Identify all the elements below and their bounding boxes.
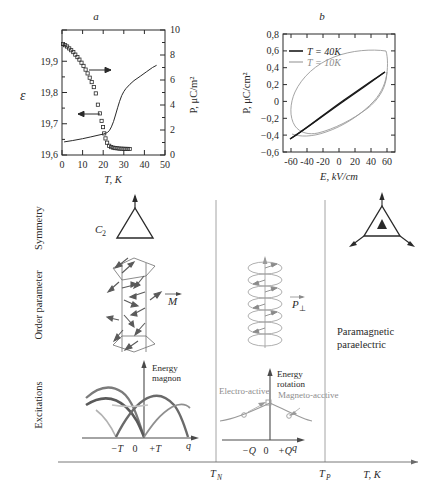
panel-a-y-axis-right: 0 2 4 6 8 10 P, μC/m²: [160, 24, 199, 160]
panel-a-ytick-r-1: 2: [170, 124, 175, 135]
panel-b-ytick-2: 0,4: [267, 62, 280, 73]
rotation-q-label: q: [292, 442, 297, 453]
panel-a-polarization-squares: [61, 42, 131, 150]
magnon-branch-6: [112, 405, 148, 407]
panel-b-ytick-7: −0,6: [261, 147, 279, 158]
rotation-xtick-zero: 0: [264, 445, 269, 456]
panel-a-ylabel-right: P, μC/m²: [188, 77, 199, 114]
magnon-energy-label: Energy: [152, 363, 178, 373]
panel-a-ytick-r-3: 6: [170, 74, 175, 85]
legend-label-40k: T = 40K: [307, 46, 342, 57]
panel-b-ytick-6: −0,4: [261, 130, 279, 141]
order-parameter-label-p-perp: P ⊥: [291, 298, 306, 313]
magnon-branch-4: [116, 396, 188, 437]
magnon-branch-2: [86, 398, 144, 437]
electro-active-label: Electro-active: [219, 386, 269, 396]
phase-label-paramagnetic: Paramagnetic: [337, 326, 394, 337]
symmetry-up-arrow-icon: [132, 194, 138, 202]
phase-diagram: Symmetry Order parameter Excitations T N…: [33, 192, 418, 482]
panel-a-xtick-2: 20: [98, 159, 108, 170]
phase-axis-xlabel: T, K: [363, 469, 381, 480]
helix-axis-arrow-icon: [263, 256, 268, 264]
magnon-xtick-neg: −T: [111, 443, 125, 454]
magnon-xtick-pos: +T: [149, 443, 163, 454]
panel-a-epsilon-curve: [64, 65, 157, 142]
symmetry-arrow-up-icon: [379, 192, 384, 200]
panel-b-xtick-0: -60: [284, 156, 297, 167]
magnon-mode-label: magnon: [152, 373, 181, 383]
rotation-xtick-neg: −Q: [242, 445, 257, 456]
panel-b-xtick-6: 60: [382, 156, 392, 167]
row-label-excitations: Excitations: [33, 381, 44, 428]
rotation-xtick-pos: +Q: [278, 445, 293, 456]
magneto-active-label: Magneto-acctive: [278, 390, 338, 400]
c2-subscript: 2: [102, 229, 106, 238]
panel-a-y-axis-left: 19,6 19,7 19,8 19,9 ε: [20, 30, 67, 160]
excitations-electromagnon: Energy rotation Electro-active Magneto-a…: [219, 368, 338, 456]
rotation-mode-label: rotation: [277, 379, 305, 389]
panel-a-xlabel: T, K: [104, 174, 122, 185]
symmetry-high-temperature: [349, 192, 415, 247]
panel-a-frame: [62, 30, 165, 155]
panel-a-xtick-0: 0: [60, 159, 65, 170]
panel-b-ylabel: P, μC/cm²: [241, 72, 252, 113]
tp-base: T: [319, 468, 326, 479]
symmetry-inner-triangle-icon: [377, 219, 387, 229]
row-label-symmetry: Symmetry: [33, 205, 44, 249]
rotation-q-arrow-icon: [297, 437, 305, 442]
panel-a-ytick-r-5: 10: [170, 24, 180, 35]
panel-b-xtick-4: 20: [350, 156, 360, 167]
panel-a-ytick-1: 19,7: [41, 118, 59, 129]
panel-b-ytick-1: 0,6: [267, 45, 280, 56]
panel-a-xtick-1: 10: [78, 159, 88, 170]
tp-subscript: P: [325, 473, 331, 482]
panel-a-ytick-r-0: 0: [170, 149, 175, 160]
panel-b-xtick-2: -20: [316, 156, 329, 167]
m-vector-arrow-icon: [176, 292, 182, 296]
row-label-order-parameter: Order parameter: [33, 270, 44, 340]
panel-a-title: a: [93, 10, 99, 22]
magnon-branch-3: [96, 410, 116, 437]
magnon-q-label: q: [186, 440, 191, 451]
panel-a-xtick-4: 40: [139, 159, 149, 170]
magnon-q-arrow-icon: [191, 435, 199, 440]
p-vector-arrow-icon: [299, 295, 305, 299]
axis-tick-tn-label: T N: [210, 468, 223, 482]
symmetry-low-temperature: C 2: [95, 194, 153, 238]
panel-b-ytick-5: −0,2: [261, 113, 279, 124]
panel-a-ylabel-left: ε: [20, 88, 26, 103]
rotation-energy-arrow-icon: [267, 368, 272, 376]
figure-svg: a 19,6 19,7 19,8 19,9 ε: [0, 0, 439, 495]
axis-tick-tp-label: T P: [319, 468, 331, 482]
panel-a-xtick-3: 30: [119, 159, 129, 170]
symmetry-triangle-icon: [117, 208, 153, 238]
panel-a-ytick-0: 19,6: [41, 149, 59, 160]
panel-b: b 0,8 0,6 0,4 0,2 0 −0,2 −0,4: [241, 10, 395, 182]
c2-label: C 2: [95, 223, 106, 238]
excitations-magnon: Energy magnon −T 0 +T q: [82, 360, 199, 454]
p-base: P: [291, 298, 299, 310]
rotation-dispersion-curve: [220, 403, 312, 421]
panel-a-ytick-r-4: 8: [170, 49, 175, 60]
magnon-energy-arrow-icon: [141, 360, 146, 368]
panel-b-xtick-5: 40: [366, 156, 376, 167]
order-parameter-label-m: M: [167, 295, 178, 307]
panel-a: a 19,6 19,7 19,8 19,9 ε: [20, 10, 199, 185]
panel-b-ytick-4: 0: [274, 96, 279, 107]
panel-a-ytick-3: 19,9: [41, 56, 59, 67]
p-subscript: ⊥: [299, 304, 306, 313]
rotation-energy-label: Energy: [277, 369, 303, 379]
panel-a-ytick-2: 19,8: [41, 87, 59, 98]
panel-b-ytick-3: 0,2: [267, 79, 280, 90]
panel-b-ytick-0: 0,8: [267, 29, 280, 40]
order-parameter-polarization-helix: P ⊥: [248, 256, 306, 348]
magnon-branch-1: [86, 387, 144, 437]
panel-b-title: b: [319, 10, 325, 22]
phase-label-paraelectric: paraelectric: [337, 339, 386, 350]
tn-base: T: [210, 468, 217, 479]
temperature-axis-arrow-icon: [411, 459, 418, 464]
panel-b-legend: T = 40K T = 10K: [289, 46, 342, 68]
panel-b-xtick-3: 0: [337, 156, 342, 167]
figure-root: a 19,6 19,7 19,8 19,9 ε: [0, 0, 439, 495]
magnon-xtick-zero: 0: [133, 443, 138, 454]
